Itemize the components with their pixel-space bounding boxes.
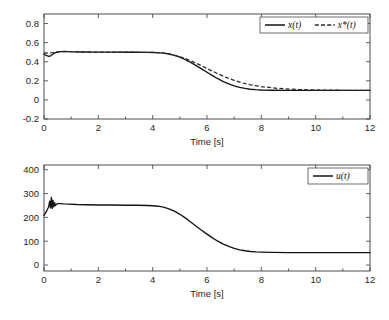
y-tick-label: 0.8 — [26, 18, 39, 29]
x-tick-label: 6 — [204, 122, 209, 133]
control-plot-panel: 0100200300400024681012Time [s]u(t) — [0, 152, 389, 320]
state-plot-panel: -0.200.20.40.60.8024681012Time [s]x(t)x*… — [0, 0, 389, 160]
legend-label: u(t) — [336, 171, 350, 182]
y-tick-label: 0.6 — [26, 37, 39, 48]
control-plot-svg: 0100200300400024681012Time [s]u(t) — [0, 152, 389, 320]
x-tick-label: 4 — [150, 122, 155, 133]
x-axis-title: Time [s] — [190, 288, 223, 299]
legend-label: x(t) — [287, 20, 301, 31]
x-tick-label: 10 — [310, 274, 321, 285]
x-tick-label: 2 — [96, 274, 101, 285]
x-tick-label: 4 — [150, 274, 155, 285]
series-xt — [44, 52, 370, 91]
series-ut — [44, 197, 370, 252]
y-tick-label: 0 — [34, 94, 39, 105]
y-tick-label: 0 — [34, 259, 39, 270]
x-tick-label: 2 — [96, 122, 101, 133]
x-tick-label: 0 — [41, 122, 46, 133]
y-tick-label: 200 — [23, 212, 39, 223]
y-tick-label: 100 — [23, 236, 39, 247]
y-tick-label: 400 — [23, 164, 39, 175]
y-tick-label: 300 — [23, 188, 39, 199]
x-tick-label: 6 — [204, 274, 209, 285]
y-tick-label: 0.2 — [26, 75, 39, 86]
state-plot-svg: -0.200.20.40.60.8024681012Time [s]x(t)x*… — [0, 0, 389, 160]
x-tick-label: 10 — [310, 122, 321, 133]
x-tick-label: 12 — [365, 274, 376, 285]
y-tick-label: -0.2 — [23, 113, 39, 124]
y-tick-label: 0.4 — [26, 56, 39, 67]
x-tick-label: 0 — [41, 274, 46, 285]
x-tick-label: 8 — [259, 122, 264, 133]
series-xt — [44, 52, 370, 91]
figure-canvas: -0.200.20.40.60.8024681012Time [s]x(t)x*… — [0, 0, 389, 320]
x-tick-label: 8 — [259, 274, 264, 285]
x-axis-title: Time [s] — [190, 136, 223, 147]
x-tick-label: 12 — [365, 122, 376, 133]
legend-label: x*(t) — [337, 20, 356, 31]
